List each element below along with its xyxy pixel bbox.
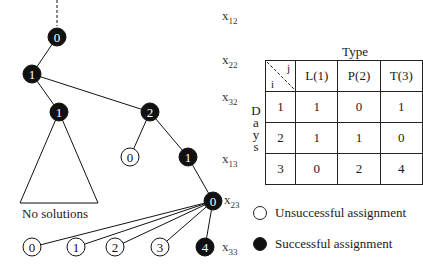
col-header: P(2) [338,61,380,92]
search-tree: 011201001234 [0,0,250,274]
successful-node: 1 [23,65,41,83]
svg-text:0: 0 [127,150,134,165]
cell: 1 [380,92,422,123]
svg-text:1: 1 [56,105,63,120]
open-circle-icon [253,206,267,220]
unsuccessful-node: 0 [23,238,41,256]
table-header-row: j i L(1) P(2) T(3) [266,61,423,92]
cell: 1 [338,123,380,154]
successful-node: 1 [179,148,197,166]
unsuccessful-node: 3 [151,238,169,256]
row-header: 1 [266,92,296,123]
unsuccessful-node: 1 [67,238,85,256]
unsuccessful-node: 2 [106,238,124,256]
table-title: Type [290,44,420,60]
successful-node: 1 [50,103,68,121]
cell: 1 [296,92,338,123]
level-label-x22: x22 [222,52,238,70]
svg-text:2: 2 [147,105,154,120]
svg-text:3: 3 [157,240,164,255]
no-solutions-label: No solutions [22,206,88,222]
days-axis-label: Days [250,105,262,153]
cell: 0 [380,123,422,154]
unsuccessful-node: 0 [121,148,139,166]
tree-edge [32,74,150,112]
svg-text:1: 1 [73,240,80,255]
level-label-x13: x13 [222,151,238,169]
filled-circle-icon [253,237,267,251]
cell: 1 [296,123,338,154]
table-row: 1 1 0 1 [266,92,423,123]
row-header: 3 [266,154,296,185]
cell: 4 [380,154,422,185]
demand-table: j i L(1) P(2) T(3) 1 1 0 1 2 1 1 0 3 0 2… [265,60,423,185]
col-header: L(1) [296,61,338,92]
table-row: 2 1 1 0 [266,123,423,154]
table-row: 3 0 2 4 [266,154,423,185]
svg-text:1: 1 [185,150,192,165]
cell: 0 [296,154,338,185]
svg-text:4: 4 [202,240,209,255]
svg-text:0: 0 [210,194,217,209]
successful-node: 0 [48,28,66,46]
successful-node: 0 [204,192,222,210]
col-header: T(3) [380,61,422,92]
successful-node: 4 [196,238,214,256]
successful-node: 2 [141,103,159,121]
svg-text:1: 1 [29,67,36,82]
svg-text:2: 2 [112,240,119,255]
level-label-x12: x12 [222,8,238,26]
svg-text:0: 0 [54,30,61,45]
level-label-x32: x32 [222,89,238,107]
corner-cell: j i [266,61,296,92]
legend-successful: Successful assignment [253,236,392,252]
tree-edge [76,201,213,247]
legend-unsuccessful: Unsuccessful assignment [253,205,406,221]
cell: 0 [338,92,380,123]
pruned-subtree-triangle [20,112,98,203]
svg-text:0: 0 [29,240,36,255]
row-header: 2 [266,123,296,154]
level-label-x33: x33 [222,239,238,257]
cell: 2 [338,154,380,185]
level-label-x23: x23 [224,192,240,210]
